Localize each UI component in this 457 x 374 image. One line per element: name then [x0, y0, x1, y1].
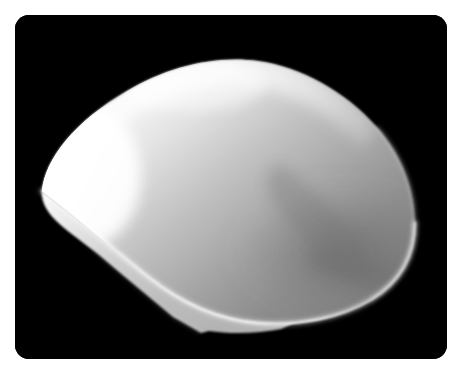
photo-stage: A white ceramic bowl with a softly squar… — [0, 0, 457, 374]
bowl-photograph — [15, 15, 447, 359]
photograph-panel — [15, 15, 447, 359]
